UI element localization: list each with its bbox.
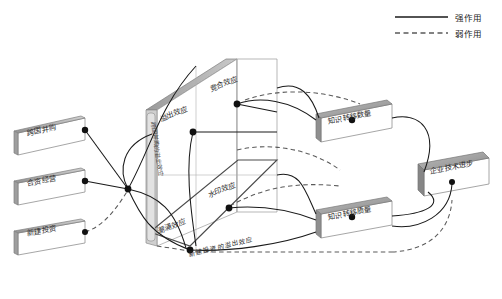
legend-label-weak: 弱作用 [455, 27, 482, 39]
input-plate-1 [14, 116, 85, 155]
legend-label-strong: 强作用 [455, 11, 482, 23]
diagram-svg [0, 0, 502, 299]
legend-marks [395, 17, 448, 33]
diagram-canvas: 跨国并购 合资经营 新建投资 溢出效应 竞合效应 水印效应 潮涌效应 跨国并购的… [0, 0, 502, 299]
